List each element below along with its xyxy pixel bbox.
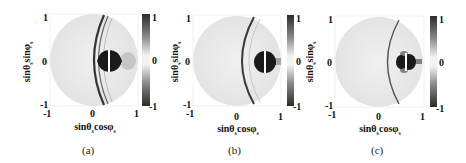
x-tick: -1: [328, 109, 336, 120]
x-tick: 0: [90, 108, 95, 119]
cbar-tick-max: 1: [439, 14, 444, 25]
panel-a-svg: 1 0 -1 1 0 -1 -1 0 1 sinθscosφs sinθssin…: [0, 0, 160, 163]
y-tick: 0: [42, 56, 47, 67]
y-tick: 1: [43, 12, 48, 23]
central-blob-left: [396, 55, 406, 69]
y-axis-label: sinθssinφs: [304, 41, 317, 82]
x-axis-label: sinθscosφs: [217, 123, 259, 136]
x-tick: 1: [134, 108, 139, 119]
x-tick: 0: [234, 111, 239, 122]
caption-c: (c): [371, 144, 383, 156]
x-tick: 1: [420, 111, 425, 122]
y-tick: 0: [327, 57, 332, 68]
y-tick: 1: [328, 14, 333, 25]
cbar-tick-zero: 0: [439, 57, 444, 68]
caption-a: (a): [82, 144, 94, 156]
blob-split-line: [264, 51, 266, 73]
blob-split-line: [405, 53, 407, 71]
x-tick: 0: [376, 111, 381, 122]
colorbar: [287, 15, 294, 106]
figure: 1 0 -1 1 0 -1 -1 0 1 sinθscosφs sinθssin…: [0, 0, 466, 163]
panel-a: 1 0 -1 1 0 -1 -1 0 1 sinθscosφs sinθssin…: [0, 0, 160, 163]
colorbar: [142, 14, 150, 106]
caption-b: (b): [228, 144, 241, 156]
cbar-tick-min: -1: [436, 103, 444, 114]
y-axis-label: sinθssinφs: [169, 41, 182, 82]
x-axis-label: sinθscosφs: [359, 123, 401, 136]
colorbar: [430, 16, 437, 107]
panel-c-svg: sinθssinφs 1 0 -1 1 0 -1 -1 0 1 sinθscos…: [296, 0, 466, 163]
panel-b-ylabel-svg: sinθssinφs: [150, 0, 190, 163]
speckle-lobe: [120, 52, 136, 70]
y-axis-label: sinθssinφs: [21, 41, 34, 82]
x-tick: -1: [43, 108, 51, 119]
blob-split-line: [108, 50, 110, 72]
panel-c: sinθssinφs 1 0 -1 1 0 -1 -1 0 1 sinθscos…: [296, 0, 466, 163]
x-tick: 1: [278, 111, 283, 122]
x-axis-label: sinθscosφs: [74, 121, 116, 134]
